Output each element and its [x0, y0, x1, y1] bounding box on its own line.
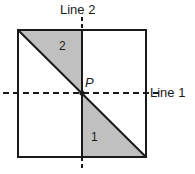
region-two-label: 2: [59, 40, 66, 52]
line1-label: Line 1: [150, 86, 185, 99]
region-one-label: 1: [91, 131, 98, 143]
point-p-label: P: [85, 76, 94, 89]
line2-label: Line 2: [60, 3, 95, 16]
geometry-figure: Line 2 Line 1 P 2 1: [0, 0, 195, 174]
point-p-marker: [79, 90, 84, 95]
